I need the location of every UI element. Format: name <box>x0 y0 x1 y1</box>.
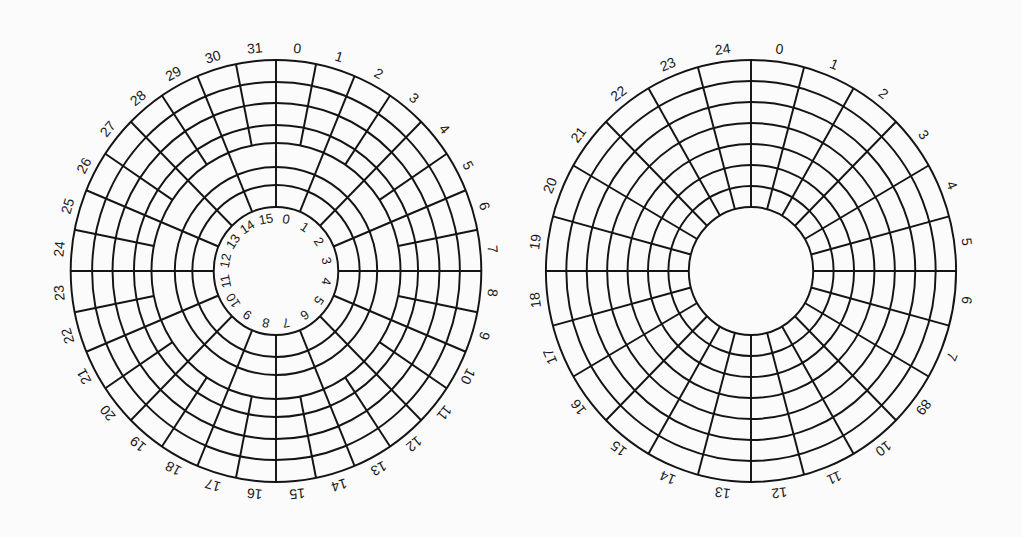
sector-boundary <box>131 362 188 421</box>
sector-label-outer: 27 <box>96 118 118 140</box>
uniform-disk: 0123456789101112131415161718192021222324 <box>526 40 975 502</box>
sector-label-outer: 5 <box>958 237 975 247</box>
sector-boundary <box>364 362 421 421</box>
sector-boundary <box>334 295 392 319</box>
sector-label-inner: 4 <box>319 276 335 286</box>
sector-boundary <box>162 377 207 446</box>
sector-label-outer: 23 <box>657 54 678 75</box>
sector-label-inner: 8 <box>261 315 271 331</box>
sector-label-outer: 10 <box>872 438 894 460</box>
sector-label-outer: 0 <box>775 40 785 57</box>
sector-label-outer: 24 <box>50 240 67 257</box>
sector-boundary <box>606 122 707 226</box>
sector-label-outer: 11 <box>824 468 844 488</box>
sector-label-outer: 15 <box>607 437 629 459</box>
sector-label-outer: 11 <box>434 402 456 424</box>
sector-label-outer: 28 <box>127 87 149 109</box>
sector-boundary <box>162 96 207 165</box>
sector-label-inner: 2 <box>311 234 327 248</box>
sector-label-outer: 31 <box>246 39 263 56</box>
sector-label-outer: 10 <box>457 366 479 387</box>
sector-label-outer: 0 <box>293 40 303 57</box>
sector-label-outer: 15 <box>289 485 306 502</box>
sector-boundary <box>300 330 324 389</box>
sector-boundary <box>334 222 392 246</box>
sector-label-outer: 29 <box>163 63 184 85</box>
sector-boundary <box>161 295 219 319</box>
sector-label-outer: 26 <box>73 155 95 176</box>
sector-boundary <box>606 316 707 420</box>
sector-label-outer: 1 <box>828 55 842 73</box>
sector-boundary <box>380 154 447 200</box>
sector-label-outer: 19 <box>126 433 148 455</box>
sector-boundary <box>131 122 188 181</box>
sector-label-outer: 20 <box>539 175 560 196</box>
sector-boundary <box>228 330 252 389</box>
sector-label-outer: 2 <box>876 85 892 103</box>
sector-label-outer: 1 <box>333 48 345 66</box>
sector-boundary <box>380 342 447 388</box>
sector-label-outer: 23 <box>50 284 67 301</box>
sector-boundary <box>105 154 172 200</box>
sector-label-outer: 19 <box>526 233 544 251</box>
sector-boundary <box>228 153 252 212</box>
sector-label-inner: 1 <box>297 219 311 235</box>
sector-label-outer: 13 <box>714 484 732 502</box>
sector-label-outer: 20 <box>96 402 118 424</box>
sector-label-outer: 3 <box>915 127 933 143</box>
sector-label-inner: 6 <box>297 307 311 323</box>
sector-label-outer: 22 <box>57 326 77 346</box>
sector-label-outer: 12 <box>403 433 425 455</box>
sector-label-inner: 15 <box>257 210 274 228</box>
sector-label-outer: 89 <box>913 396 935 418</box>
sector-label-outer: 14 <box>329 475 349 495</box>
sector-label-inner: 3 <box>319 256 335 266</box>
sector-label-inner: 7 <box>281 315 291 331</box>
sector-label-inner: 0 <box>281 211 291 227</box>
sector-label-outer: 7 <box>943 350 961 364</box>
sector-boundary <box>105 342 172 388</box>
sector-label-outer: 16 <box>246 485 263 502</box>
sector-label-outer: 18 <box>162 458 183 480</box>
sector-label-outer: 22 <box>607 82 629 104</box>
sector-label-outer: 2 <box>372 65 387 83</box>
sector-boundary <box>345 377 390 446</box>
sector-boundary <box>364 122 421 181</box>
sector-label-inner: 9 <box>240 307 254 323</box>
sector-label-outer: 16 <box>567 396 589 418</box>
sector-label-inner: 12 <box>217 252 235 269</box>
sector-label-outer: 25 <box>58 196 78 216</box>
sector-boundary <box>795 122 896 226</box>
sector-label-outer: 17 <box>539 346 560 367</box>
diagram-canvas: 0123456789101112131415161718192021222324… <box>0 0 1022 537</box>
sector-label-outer: 6 <box>476 200 494 212</box>
sector-label-outer: 7 <box>485 244 502 254</box>
sector-label-outer: 14 <box>657 467 678 488</box>
sector-label-outer: 21 <box>567 123 589 145</box>
sector-boundary <box>161 222 219 246</box>
sector-label-outer: 5 <box>459 158 477 173</box>
sector-label-outer: 6 <box>958 295 975 305</box>
sector-label-outer: 30 <box>203 47 223 67</box>
sector-label-outer: 24 <box>714 40 732 58</box>
sector-label-inner: 11 <box>217 273 234 289</box>
sector-label-inner: 5 <box>311 293 327 307</box>
sector-boundary <box>300 153 324 212</box>
sector-label-outer: 12 <box>770 484 788 502</box>
track-ring <box>689 207 813 335</box>
sector-boundary <box>345 96 390 165</box>
sector-label-outer: 21 <box>73 366 95 387</box>
sector-label-outer: 4 <box>436 121 453 137</box>
sector-label-outer: 4 <box>943 179 961 193</box>
sector-label-outer: 13 <box>368 458 389 480</box>
sector-label-outer: 3 <box>406 89 422 106</box>
track-ring <box>214 207 339 335</box>
sector-label-outer: 17 <box>203 475 223 495</box>
sector-label-outer: 9 <box>476 330 494 342</box>
sector-label-outer: 18 <box>526 291 544 309</box>
sector-boundary <box>795 316 896 420</box>
sector-label-outer: 8 <box>485 288 502 298</box>
figure: Disk track/sector layouts: zoned (left) … <box>0 0 1022 537</box>
zoned-disk: 0123456789101112131415161718192021222324… <box>50 39 501 502</box>
